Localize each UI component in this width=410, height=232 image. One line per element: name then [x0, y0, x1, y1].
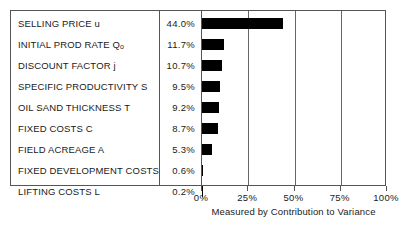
bar [202, 81, 220, 92]
bar [202, 144, 212, 155]
row-label-text: FIXED COSTS C [18, 123, 93, 134]
axis-caption: Measured by Contribution to Variance [201, 206, 386, 217]
row-label-text: FIXED DEVELOPMENT COSTS [18, 165, 159, 176]
row-value: 9.5% [159, 76, 195, 97]
chart-frame: SELLING PRICE u44.0%INITIAL PROD RATE Qo… [10, 10, 386, 186]
row-label-text: SPECIFIC PRODUCTIVITY S [18, 81, 147, 92]
tornado-chart: SELLING PRICE u44.0%INITIAL PROD RATE Qo… [0, 0, 410, 232]
bar [202, 60, 222, 71]
row-label: SPECIFIC PRODUCTIVITY S [18, 76, 147, 97]
row-label: FIXED DEVELOPMENT COSTS [18, 160, 159, 181]
axis-tick-label: 0% [194, 191, 208, 205]
bar [202, 123, 218, 134]
table-row: FIXED DEVELOPMENT COSTS0.6% [11, 160, 385, 181]
row-label-text: DISCOUNT FACTOR j [18, 60, 116, 71]
row-value: 8.7% [159, 118, 195, 139]
row-label: SELLING PRICE u [18, 13, 100, 34]
table-row: OIL SAND THICKNESS T9.2% [11, 97, 385, 118]
row-label-text: SELLING PRICE u [18, 18, 100, 29]
row-label-subscript: o [120, 43, 124, 50]
bar [202, 39, 224, 50]
row-value: 5.3% [159, 139, 195, 160]
row-label: INITIAL PROD RATE Qo [18, 34, 124, 55]
row-label-text: OIL SAND THICKNESS T [18, 102, 130, 113]
axis-tick-label: 75% [330, 191, 350, 205]
table-row: DISCOUNT FACTOR j10.7% [11, 55, 385, 76]
row-value: 11.7% [159, 34, 195, 55]
row-value: 0.6% [159, 160, 195, 181]
table-row: INITIAL PROD RATE Qo11.7% [11, 34, 385, 55]
row-value: 10.7% [159, 55, 195, 76]
axis-tick-label: 50% [284, 191, 304, 205]
row-label: DISCOUNT FACTOR j [18, 55, 116, 76]
axis-tick-labels: 0%25%50%75%100% [0, 191, 410, 205]
bar [202, 18, 283, 29]
row-label: FIELD ACREAGE A [18, 139, 104, 160]
table-row: FIXED COSTS C8.7% [11, 118, 385, 139]
row-label-text: FIELD ACREAGE A [18, 144, 104, 155]
table-row: SELLING PRICE u44.0% [11, 13, 385, 34]
row-label: OIL SAND THICKNESS T [18, 97, 130, 118]
bar [202, 102, 219, 113]
table-row: FIELD ACREAGE A5.3% [11, 139, 385, 160]
axis-tick-label: 25% [237, 191, 257, 205]
chart-rows: SELLING PRICE u44.0%INITIAL PROD RATE Qo… [11, 11, 385, 185]
row-label-text: INITIAL PROD RATE Q [18, 39, 120, 50]
table-row: SPECIFIC PRODUCTIVITY S9.5% [11, 76, 385, 97]
row-value: 9.2% [159, 97, 195, 118]
row-value: 44.0% [159, 13, 195, 34]
axis-tick-label: 100% [373, 191, 399, 205]
row-label: FIXED COSTS C [18, 118, 93, 139]
bar [202, 165, 203, 176]
